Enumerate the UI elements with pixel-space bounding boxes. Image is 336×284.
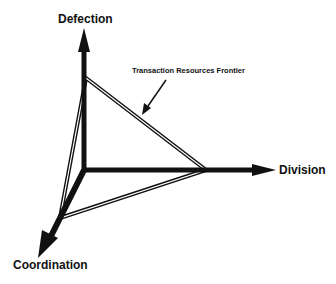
frontier-diagram <box>0 0 336 284</box>
division-label: Division <box>279 163 326 177</box>
annotation-arrow <box>142 80 166 115</box>
defection-label: Defection <box>58 12 113 26</box>
frontier-annotation: Transaction Resources Frontier <box>132 66 245 75</box>
coordination-label: Coordination <box>13 258 88 272</box>
defection-axis <box>78 28 90 172</box>
division-axis <box>82 164 276 176</box>
diagram-canvas: Defection Division Coordination Transact… <box>0 0 336 284</box>
